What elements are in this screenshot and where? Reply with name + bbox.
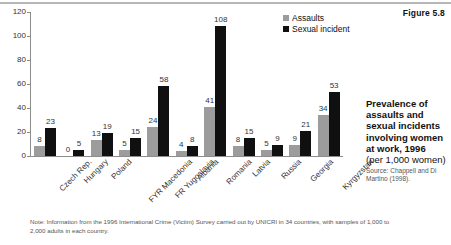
x-category-label: Latvia bbox=[251, 158, 272, 179]
bar-assaults bbox=[261, 150, 272, 156]
figure-footnote: Note: Information from the 1996 Internat… bbox=[30, 218, 390, 235]
y-tick-label: 80 bbox=[4, 56, 26, 64]
caption-subtitle: (per 1,000 women) bbox=[366, 154, 451, 165]
bar-value-label: 108 bbox=[211, 16, 230, 24]
bar-assaults bbox=[318, 115, 329, 156]
plot-area: 82305131951524584841108815599213453 bbox=[30, 12, 343, 157]
bar-sexual-incident bbox=[45, 128, 56, 156]
y-tick-label: 60 bbox=[4, 80, 26, 88]
bar-group: 1319 bbox=[90, 12, 118, 156]
bar-sexual-incident bbox=[187, 146, 198, 156]
y-tick-label: 120 bbox=[4, 8, 26, 16]
bar-assaults bbox=[147, 127, 158, 156]
y-axis-labels: 020406080100120 bbox=[0, 12, 26, 157]
bar-value-label: 19 bbox=[98, 123, 117, 131]
bar-assaults bbox=[289, 145, 300, 156]
bar-value-label: 5 bbox=[69, 140, 88, 148]
y-tick-label: 100 bbox=[4, 32, 26, 40]
bar-group: 515 bbox=[118, 12, 146, 156]
bar-sexual-incident bbox=[244, 138, 255, 156]
bar-group: 41108 bbox=[203, 12, 231, 156]
bar-value-label: 53 bbox=[325, 82, 344, 90]
x-axis-category-labels: Czech Rep.HungaryPolandFYR MacedoniaFR Y… bbox=[30, 158, 345, 204]
y-tick-label: 20 bbox=[4, 128, 26, 136]
bar-group: 05 bbox=[61, 12, 89, 156]
bar-sexual-incident bbox=[73, 150, 84, 156]
bar-value-label: 58 bbox=[154, 76, 173, 84]
bar-assaults bbox=[91, 140, 102, 156]
y-tick-label: 0 bbox=[4, 152, 26, 160]
y-tick-label: 40 bbox=[4, 104, 26, 112]
caption-title: Prevalence of assaults and sexual incide… bbox=[366, 98, 451, 154]
y-tick-mark bbox=[27, 156, 31, 157]
bar-sexual-incident bbox=[130, 138, 141, 156]
bar-group: 823 bbox=[33, 12, 61, 156]
bar-value-label: 15 bbox=[126, 128, 145, 136]
bar-sexual-incident bbox=[329, 92, 340, 156]
bar-value-label: 21 bbox=[296, 121, 315, 129]
bar-sexual-incident bbox=[102, 133, 113, 156]
bar-group: 2458 bbox=[146, 12, 174, 156]
bar-value-label: 8 bbox=[183, 136, 202, 144]
x-category-label: Russia bbox=[280, 158, 303, 181]
x-category-label: Georgia bbox=[310, 158, 336, 184]
bar-sexual-incident bbox=[272, 145, 283, 156]
bar-sexual-incident bbox=[215, 26, 226, 156]
figure-root: Figure 5.8 Assaults Sexual incident 0204… bbox=[0, 0, 451, 245]
bar-assaults bbox=[204, 107, 215, 156]
bar-group: 59 bbox=[260, 12, 288, 156]
bar-value-label: 23 bbox=[41, 118, 60, 126]
bar-group: 815 bbox=[232, 12, 260, 156]
figure-number: Figure 5.8 bbox=[403, 8, 445, 18]
bar-group: 921 bbox=[288, 12, 316, 156]
bar-sexual-incident bbox=[158, 86, 169, 156]
bar-value-label: 9 bbox=[268, 135, 287, 143]
bar-sexual-incident bbox=[300, 131, 311, 156]
caption-source: Source: Chappell and Di Martino (1998). bbox=[366, 167, 451, 183]
bar-series-container: 82305131951524584841108815599213453 bbox=[31, 12, 343, 156]
bar-assaults bbox=[176, 151, 187, 156]
bar-group: 48 bbox=[175, 12, 203, 156]
x-category-label: Albania bbox=[196, 158, 221, 183]
x-category-label: Poland bbox=[110, 158, 133, 181]
bar-assaults bbox=[34, 146, 45, 156]
bar-group: 3453 bbox=[317, 12, 345, 156]
figure-caption: Prevalence of assaults and sexual incide… bbox=[366, 98, 451, 183]
bar-assaults bbox=[233, 146, 244, 156]
bar-assaults bbox=[119, 150, 130, 156]
top-divider bbox=[0, 2, 451, 4]
bar-value-label: 15 bbox=[240, 128, 259, 136]
